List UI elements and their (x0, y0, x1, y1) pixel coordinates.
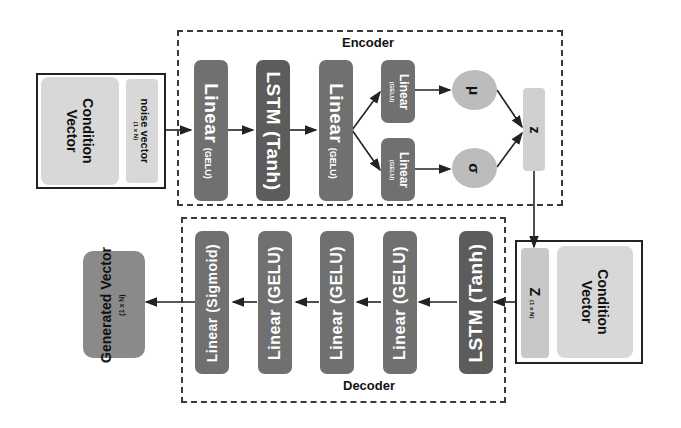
decoder-condition-label: Condition Vector (579, 264, 611, 340)
mu-node: μ (452, 70, 497, 110)
noise-vector-label: noise vector (139, 99, 151, 164)
encoder-linear-1: Linear (GELU) (194, 60, 228, 201)
decoder-linear-sigmoid: Linear (Sigmoid) (195, 231, 229, 374)
encoder-condition-label: Condition Vector (64, 92, 96, 170)
encoder-linear-mu: Linear (GELU) (381, 60, 415, 123)
noise-vector: noise vector (1 x N) (126, 79, 158, 183)
latent-z: z (523, 88, 545, 171)
encoder-lstm: LSTM (Tanh) (256, 60, 290, 201)
encoder-condition-vector: Condition Vector (41, 77, 119, 185)
encoder-container (177, 30, 563, 206)
generated-vector: Generated Vector (1 x N) (83, 251, 145, 358)
encoder-title: Encoder (342, 35, 394, 50)
decoder-condition-vector: Condition Vector (557, 246, 633, 358)
decoder-linear-3: Linear (GELU) (258, 231, 292, 374)
decoder-title: Decoder (343, 378, 395, 393)
noise-vector-dims: (1 x N) (133, 122, 139, 140)
encoder-linear-sigma: Linear (GELU) (381, 138, 415, 201)
decoder-z-vector: Z (1 x N) (521, 248, 549, 358)
decoder-linear-2: Linear (GELU) (320, 231, 354, 374)
decoder-linear-1: Linear (GELU) (383, 231, 417, 374)
decoder-lstm: LSTM (Tanh) (459, 231, 493, 374)
sigma-node: σ (452, 148, 497, 188)
encoder-linear-2: Linear (GELU) (319, 60, 353, 201)
